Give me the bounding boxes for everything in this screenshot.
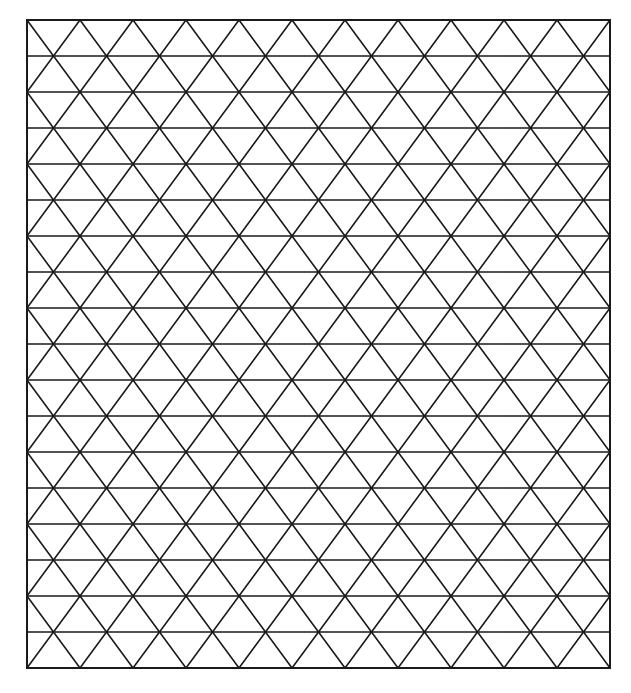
grid-line — [186, 596, 213, 632]
grid-line — [531, 344, 558, 380]
grid-line — [239, 308, 266, 344]
grid-line — [266, 632, 293, 668]
grid-line — [372, 128, 399, 164]
grid-line — [27, 452, 54, 488]
grid-line — [107, 56, 134, 92]
grid-line — [504, 308, 531, 344]
grid-line — [54, 524, 81, 560]
grid-line — [557, 416, 584, 452]
grid-line — [319, 380, 346, 416]
grid-line — [531, 200, 558, 236]
grid-line — [398, 560, 425, 596]
grid-line — [319, 344, 346, 380]
grid-line — [292, 524, 319, 560]
grid-line — [319, 308, 346, 344]
grid-line — [504, 416, 531, 452]
grid-line — [345, 416, 372, 452]
grid-line — [584, 452, 611, 488]
grid-line — [531, 236, 558, 272]
grid-line — [213, 92, 240, 128]
grid-line — [557, 308, 584, 344]
grid-line — [107, 308, 134, 344]
grid-line — [107, 488, 134, 524]
grid-line — [239, 56, 266, 92]
grid-line — [557, 164, 584, 200]
grid-line — [504, 236, 531, 272]
grid-line — [584, 596, 611, 632]
grid-line — [213, 128, 240, 164]
grid-line — [27, 56, 54, 92]
grid-line — [186, 344, 213, 380]
grid-line — [160, 236, 187, 272]
grid-line — [107, 92, 134, 128]
grid-line — [266, 200, 293, 236]
grid-line — [584, 200, 611, 236]
grid-line — [160, 92, 187, 128]
grid-line — [451, 56, 478, 92]
grid-line — [451, 272, 478, 308]
grid-line — [133, 236, 160, 272]
grid-line — [266, 56, 293, 92]
grid-line — [54, 92, 81, 128]
grid-line — [266, 236, 293, 272]
grid-line — [266, 20, 293, 56]
grid-line — [398, 56, 425, 92]
triangle-grid — [0, 0, 631, 693]
grid-line — [531, 416, 558, 452]
grid-lines — [27, 20, 610, 668]
grid-line — [319, 56, 346, 92]
grid-line — [398, 164, 425, 200]
grid-line — [133, 452, 160, 488]
grid-line — [531, 56, 558, 92]
grid-line — [319, 488, 346, 524]
grid-line — [292, 128, 319, 164]
grid-line — [80, 524, 107, 560]
grid-line — [504, 452, 531, 488]
grid-line — [80, 560, 107, 596]
grid-line — [80, 596, 107, 632]
grid-line — [186, 272, 213, 308]
grid-line — [398, 380, 425, 416]
grid-line — [425, 164, 452, 200]
grid-line — [504, 92, 531, 128]
grid-line — [531, 560, 558, 596]
grid-line — [319, 236, 346, 272]
grid-line — [478, 56, 505, 92]
grid-line — [425, 20, 452, 56]
grid-line — [107, 452, 134, 488]
grid-line — [425, 488, 452, 524]
grid-line — [398, 236, 425, 272]
grid-line — [186, 560, 213, 596]
grid-line — [107, 200, 134, 236]
grid-line — [319, 92, 346, 128]
grid-line — [478, 164, 505, 200]
grid-line — [133, 560, 160, 596]
grid-line — [319, 416, 346, 452]
grid-line — [186, 308, 213, 344]
grid-line — [398, 632, 425, 668]
grid-line — [27, 344, 54, 380]
grid-line — [160, 344, 187, 380]
grid-line — [54, 560, 81, 596]
grid-line — [54, 56, 81, 92]
grid-line — [557, 560, 584, 596]
grid-line — [27, 488, 54, 524]
grid-line — [239, 344, 266, 380]
grid-line — [451, 164, 478, 200]
grid-line — [27, 128, 54, 164]
grid-line — [80, 92, 107, 128]
grid-line — [425, 272, 452, 308]
grid-line — [531, 488, 558, 524]
grid-line — [54, 416, 81, 452]
grid-line — [345, 380, 372, 416]
grid-line — [398, 596, 425, 632]
grid-line — [239, 200, 266, 236]
grid-line — [584, 128, 611, 164]
grid-line — [345, 488, 372, 524]
grid-line — [107, 524, 134, 560]
grid-line — [80, 308, 107, 344]
grid-line — [133, 488, 160, 524]
grid-line — [557, 200, 584, 236]
grid-line — [425, 560, 452, 596]
grid-line — [372, 488, 399, 524]
